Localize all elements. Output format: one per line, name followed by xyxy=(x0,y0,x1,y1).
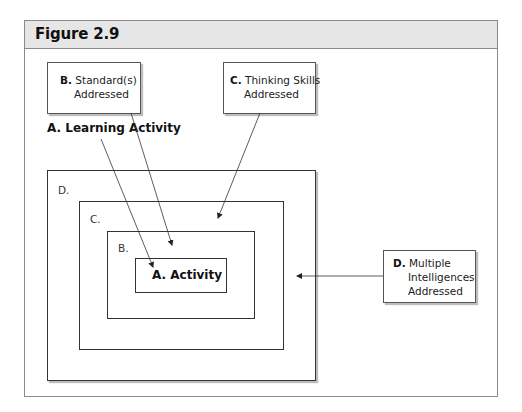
standards-letter: B. xyxy=(60,74,72,86)
learning-activity-label: A. Learning Activity xyxy=(47,121,181,135)
box-c-label: C. xyxy=(90,213,101,225)
intelligences-line3: Addressed xyxy=(393,284,475,298)
figure-title: Figure 2.9 xyxy=(35,25,119,43)
intelligences-line2: Intelligences xyxy=(393,270,475,284)
thinking-line2: Addressed xyxy=(230,87,320,101)
standards-callout: B. Standard(s) Addressed xyxy=(47,62,141,114)
thinking-line1: Thinking Skills xyxy=(245,74,320,86)
thinking-letter: C. xyxy=(230,74,242,86)
box-b-label: B. xyxy=(118,242,129,254)
standards-line2: Addressed xyxy=(60,87,137,101)
thinking-skills-callout: C. Thinking Skills Addressed xyxy=(223,62,316,114)
intelligences-letter: D. xyxy=(393,257,406,269)
standards-line1: Standard(s) xyxy=(75,74,136,86)
box-d-label: D. xyxy=(58,184,69,196)
intelligences-callout: D. Multiple Intelligences Addressed xyxy=(383,250,476,303)
figure-header: Figure 2.9 xyxy=(25,21,497,49)
box-a-label: A. Activity xyxy=(152,268,222,282)
intelligences-line1: Multiple xyxy=(409,257,451,269)
